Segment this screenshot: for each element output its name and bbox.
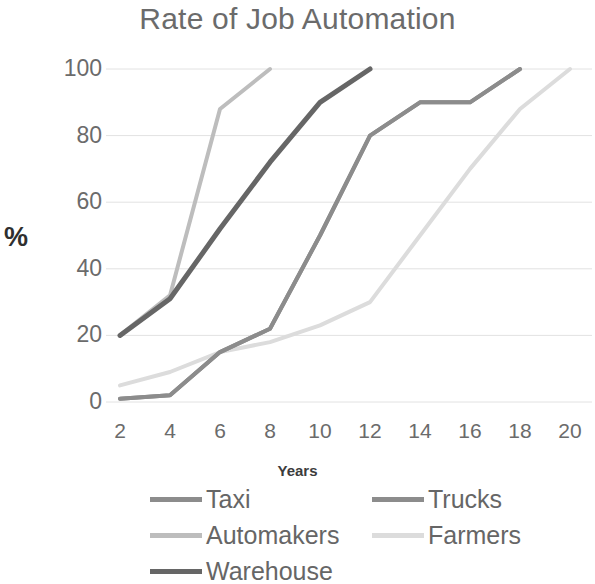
y-axis-title: % bbox=[4, 222, 28, 253]
legend-item-taxi[interactable]: Taxi bbox=[150, 487, 250, 512]
x-tick-label: 20 bbox=[550, 420, 590, 441]
legend-swatch-trucks bbox=[372, 497, 424, 502]
x-tick-label: 4 bbox=[150, 420, 190, 441]
x-tick-label: 8 bbox=[250, 420, 290, 441]
series-line-trucks bbox=[120, 69, 520, 399]
y-tick-label: 80 bbox=[42, 124, 102, 147]
x-axis-title: Years bbox=[0, 462, 595, 479]
x-tick-label: 14 bbox=[400, 420, 440, 441]
y-tick-label: 20 bbox=[42, 323, 102, 346]
legend-label-taxi: Taxi bbox=[206, 487, 250, 512]
legend-item-trucks[interactable]: Trucks bbox=[372, 487, 502, 512]
x-tick-label: 2 bbox=[100, 420, 140, 441]
legend-swatch-automakers bbox=[150, 533, 202, 538]
y-tick-label: 60 bbox=[42, 190, 102, 213]
chart-legend: Taxi Trucks Automakers Farmers Warehouse bbox=[150, 487, 580, 583]
x-tick-label: 12 bbox=[350, 420, 390, 441]
chart-container: Rate of Job Automation % Years 100806040… bbox=[0, 0, 595, 584]
x-tick-label: 18 bbox=[500, 420, 540, 441]
legend-label-trucks: Trucks bbox=[428, 487, 502, 512]
y-tick-label: 40 bbox=[42, 257, 102, 280]
legend-label-automakers: Automakers bbox=[206, 523, 339, 548]
x-tick-label: 6 bbox=[200, 420, 240, 441]
series-lines bbox=[120, 69, 570, 399]
x-tick-label: 10 bbox=[300, 420, 340, 441]
gridlines bbox=[106, 69, 592, 402]
legend-label-warehouse: Warehouse bbox=[206, 559, 333, 584]
legend-swatch-warehouse bbox=[150, 569, 202, 574]
legend-item-warehouse[interactable]: Warehouse bbox=[150, 559, 333, 584]
legend-item-farmers[interactable]: Farmers bbox=[372, 523, 521, 548]
y-tick-label: 0 bbox=[42, 390, 102, 413]
x-tick-label: 16 bbox=[450, 420, 490, 441]
legend-swatch-farmers bbox=[372, 533, 424, 538]
legend-item-automakers[interactable]: Automakers bbox=[150, 523, 339, 548]
y-tick-label: 100 bbox=[42, 57, 102, 80]
legend-swatch-taxi bbox=[150, 497, 202, 502]
legend-label-farmers: Farmers bbox=[428, 523, 521, 548]
